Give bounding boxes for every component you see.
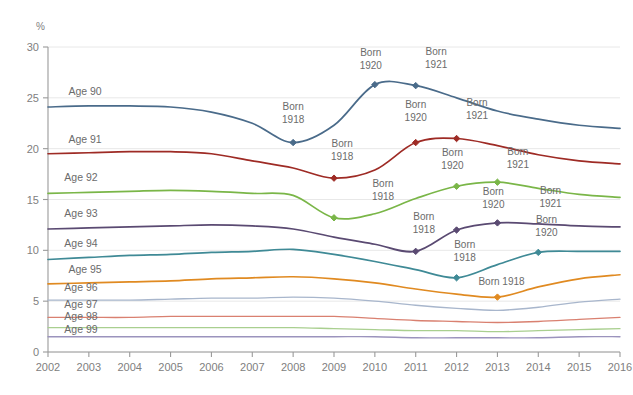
born-annotation-year: 1920 (482, 199, 505, 210)
born-annotation-year: 1918 (413, 224, 436, 235)
born-annotation-label: Born (442, 147, 463, 158)
y-tick-label: 30 (27, 41, 39, 53)
born-annotation-label: Born (426, 46, 447, 57)
x-tick-label: 2002 (36, 361, 60, 373)
x-tick-label: 2010 (363, 361, 387, 373)
x-tick-label: 2007 (240, 361, 264, 373)
series-label: Age 98 (64, 310, 97, 322)
series-line-age-96 (48, 297, 620, 310)
series-line-age-94 (48, 249, 620, 278)
data-point-marker (331, 215, 337, 221)
born-annotation-label: Born (332, 138, 353, 149)
born-annotation-year: 1918 (454, 252, 477, 263)
born-annotation-year: 1920 (535, 227, 558, 238)
data-point-marker (453, 275, 459, 281)
data-point-marker (413, 139, 419, 145)
data-point-marker (331, 175, 337, 181)
born-annotation-year: 1920 (441, 160, 464, 171)
x-tick-label: 2013 (485, 361, 509, 373)
y-tick-label: 10 (27, 244, 39, 256)
born-annotation-year: 1918 (372, 191, 395, 202)
x-tick-label: 2012 (444, 361, 468, 373)
born-annotation-year: 1918 (282, 114, 305, 125)
data-point-marker (494, 220, 500, 226)
x-tick-label: 2004 (117, 361, 141, 373)
series-label: Age 92 (64, 171, 97, 183)
born-annotation-year: 1918 (331, 151, 354, 162)
data-point-marker (453, 135, 459, 141)
data-point-marker (413, 248, 419, 254)
x-tick-label: 2016 (608, 361, 632, 373)
series-line-age-97 (48, 316, 620, 322)
series-label: Age 91 (68, 133, 101, 145)
chart-plot-area: 051015202530%200220032004200520062007200… (0, 0, 633, 395)
series-label: Age 93 (64, 207, 97, 219)
series-line-age-95 (48, 275, 620, 298)
born-annotation-year: 1921 (507, 159, 530, 170)
series-label: Age 90 (68, 85, 101, 97)
born-annotation-label: Born (360, 47, 381, 58)
series-line-age-99 (48, 337, 620, 338)
x-tick-label: 2008 (281, 361, 305, 373)
born-annotation-label: Born (413, 211, 434, 222)
born-annotation-label: Born (507, 146, 528, 157)
born-annotation-year: 1921 (425, 59, 448, 70)
series-label: Age 95 (68, 263, 101, 275)
data-point-marker (453, 183, 459, 189)
x-tick-label: 2006 (199, 361, 223, 373)
x-tick-label: 2011 (404, 361, 428, 373)
born-annotation-year: 1920 (360, 60, 383, 71)
born-annotation-year: 1920 (405, 112, 428, 123)
born-annotation-label: Born (372, 178, 393, 189)
x-tick-label: 2005 (158, 361, 182, 373)
y-axis-unit-label: % (36, 21, 45, 32)
series-line-age-98 (48, 328, 620, 332)
series-label: Age 99 (64, 323, 97, 335)
born-annotation-label: Born (536, 214, 557, 225)
x-tick-label: 2014 (526, 361, 550, 373)
born-annotation-label: Born (405, 99, 426, 110)
x-tick-label: 2009 (322, 361, 346, 373)
series-label: Age 94 (64, 237, 97, 249)
series-line-age-92 (48, 182, 620, 219)
y-tick-label: 25 (27, 92, 39, 104)
born-annotation-label: Born 1918 (478, 276, 525, 287)
y-tick-label: 15 (27, 194, 39, 206)
born-annotation-label: Born (466, 97, 487, 108)
age-distribution-line-chart: 051015202530%200220032004200520062007200… (0, 0, 633, 395)
born-annotation-year: 1921 (466, 110, 489, 121)
y-tick-label: 0 (33, 346, 39, 358)
data-point-marker (290, 139, 296, 145)
series-label: Age 96 (64, 281, 97, 293)
born-annotation-label: Born (483, 186, 504, 197)
born-annotation-year: 1921 (539, 198, 562, 209)
data-point-marker (494, 294, 500, 300)
series-line-age-93 (48, 223, 620, 252)
y-tick-label: 5 (33, 295, 39, 307)
born-annotation-label: Born (454, 239, 475, 250)
x-tick-label: 2003 (77, 361, 101, 373)
data-point-marker (453, 227, 459, 233)
data-point-marker (494, 179, 500, 185)
y-tick-label: 20 (27, 143, 39, 155)
data-point-marker (413, 82, 419, 88)
born-annotation-label: Born (283, 101, 304, 112)
born-annotation-label: Born (540, 185, 561, 196)
series-line-age-90 (48, 81, 620, 142)
series-label: Age 97 (64, 298, 97, 310)
x-tick-label: 2015 (567, 361, 591, 373)
